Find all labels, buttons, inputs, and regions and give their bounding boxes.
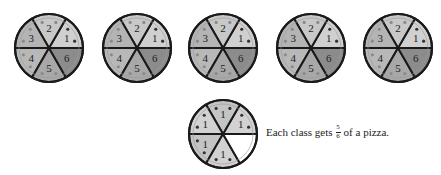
slice-label: 1 <box>203 118 209 130</box>
topping-dot <box>142 21 145 24</box>
topping-dot <box>73 40 76 43</box>
slice-label: 1 <box>220 148 226 160</box>
topping-dot <box>422 53 425 56</box>
topping-dot <box>247 53 250 56</box>
topping-dot <box>422 40 425 43</box>
topping-dot <box>247 126 250 129</box>
topping-dot <box>390 21 393 24</box>
topping-dot <box>22 40 25 43</box>
slice-label: 4 <box>291 52 297 64</box>
slice-label: 3 <box>117 32 123 44</box>
topping-dot <box>403 72 406 75</box>
topping-dot <box>291 28 294 31</box>
topping-dot <box>117 28 120 31</box>
topping-dot <box>196 40 199 43</box>
topping-dot <box>378 28 381 31</box>
slice-label: 4 <box>203 52 209 64</box>
caption-prefix: Each class gets <box>266 126 333 138</box>
slice-label: 2 <box>308 22 314 34</box>
fraction-denominator: 6 <box>336 133 340 140</box>
slice-label: 6 <box>152 52 158 64</box>
topping-dot <box>291 65 294 68</box>
topping-dot <box>117 65 120 68</box>
slice-label: 6 <box>238 52 244 64</box>
slice-label: 1 <box>152 32 158 44</box>
topping-dot <box>303 21 306 24</box>
slice-label: 4 <box>378 52 384 64</box>
slice-label: 2 <box>46 22 52 34</box>
pizza-whole-2: 123456 <box>100 11 174 85</box>
slice-label: 5 <box>46 62 52 74</box>
topping-dot <box>41 72 44 75</box>
slice-label: 2 <box>395 22 401 34</box>
slice-label: 2 <box>134 22 140 34</box>
topping-dot <box>203 114 206 117</box>
topping-dot <box>54 72 57 75</box>
slice-label: 3 <box>203 32 209 44</box>
fraction-five-sixths: 5 6 <box>336 124 341 140</box>
slice-label: 1 <box>238 118 244 130</box>
slice-label: 3 <box>29 32 35 44</box>
topping-dot <box>371 53 374 56</box>
caption: Each class gets 5 6 of a pizza. <box>266 124 389 140</box>
topping-dot <box>335 53 338 56</box>
topping-dot <box>284 53 287 56</box>
topping-dot <box>215 107 218 110</box>
slice-label: 5 <box>220 62 226 74</box>
slice-label: 3 <box>291 32 297 44</box>
pizza-five-sixths: 11111 <box>186 97 260 171</box>
topping-dot <box>203 65 206 68</box>
topping-dot <box>371 40 374 43</box>
topping-dot <box>22 53 25 56</box>
topping-dot <box>316 72 319 75</box>
topping-dot <box>240 28 243 31</box>
slice-label: 5 <box>395 62 401 74</box>
topping-dot <box>284 40 287 43</box>
topping-dot <box>29 65 32 68</box>
slice-label: 4 <box>29 52 35 64</box>
slice-label: 1 <box>203 138 209 150</box>
slice-label: 1 <box>220 108 226 120</box>
topping-dot <box>228 158 231 161</box>
slice-label: 6 <box>326 52 332 64</box>
topping-dot <box>415 65 418 68</box>
topping-dot <box>403 21 406 24</box>
topping-dot <box>228 107 231 110</box>
topping-dot <box>203 151 206 154</box>
topping-dot <box>41 21 44 24</box>
slice-label: 1 <box>64 32 69 44</box>
slice-label: 5 <box>134 62 140 74</box>
topping-dot <box>228 21 231 24</box>
topping-dot <box>66 65 69 68</box>
topping-dot <box>154 28 157 31</box>
topping-dot <box>228 72 231 75</box>
topping-dot <box>215 72 218 75</box>
slice-label: 5 <box>308 62 314 74</box>
topping-dot <box>154 65 157 68</box>
topping-dot <box>328 65 331 68</box>
topping-dot <box>129 21 132 24</box>
topping-dot <box>129 72 132 75</box>
caption-suffix: of a pizza. <box>344 126 390 138</box>
topping-dot <box>66 28 69 31</box>
topping-dot <box>390 72 393 75</box>
topping-dot <box>29 28 32 31</box>
topping-dot <box>110 53 113 56</box>
pizza-whole-1: 123456 <box>12 11 86 85</box>
topping-dot <box>247 40 250 43</box>
topping-dot <box>196 126 199 129</box>
topping-dot <box>54 21 57 24</box>
topping-dot <box>203 28 206 31</box>
topping-dot <box>328 28 331 31</box>
pizza-whole-3: 123456 <box>186 11 260 85</box>
pizza-whole-5: 123456 <box>361 11 435 85</box>
topping-dot <box>110 40 113 43</box>
topping-dot <box>316 21 319 24</box>
slice-label: 1 <box>413 32 419 44</box>
topping-dot <box>335 40 338 43</box>
slice-label: 1 <box>238 32 244 44</box>
topping-dot <box>415 28 418 31</box>
topping-dot <box>378 65 381 68</box>
topping-dot <box>215 21 218 24</box>
topping-dot <box>303 72 306 75</box>
